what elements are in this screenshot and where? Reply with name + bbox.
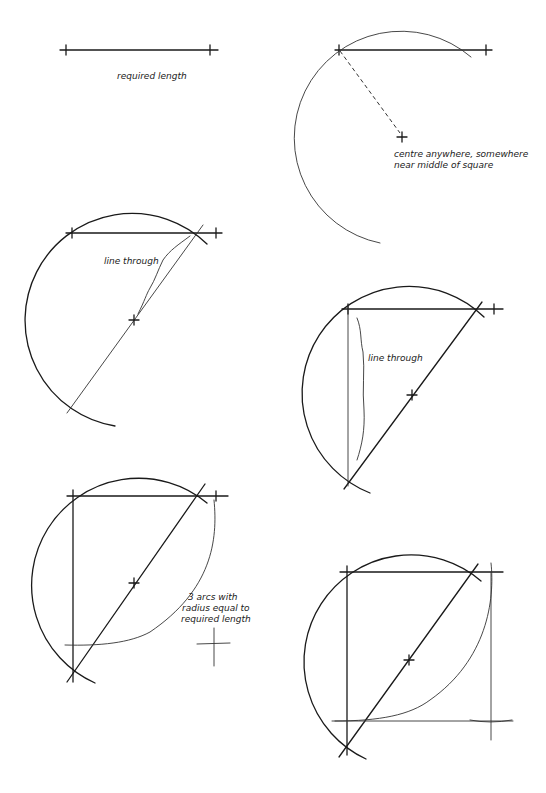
- circle-arc: [25, 213, 207, 426]
- label-arcs-line-1: 3 arcs with: [188, 592, 238, 602]
- step-3: line through: [25, 213, 222, 426]
- step-4: line through: [302, 286, 503, 493]
- step-6: [304, 555, 513, 759]
- step-2: centre anywhere, somewhere near middle o…: [294, 31, 528, 243]
- label-centre-line-2: near middle of square: [394, 160, 494, 170]
- pointer-squiggle: [138, 236, 190, 314]
- construction-diagram: required length centre anywhere, somewhe…: [0, 0, 546, 793]
- label-required-length: required length: [117, 71, 187, 81]
- label-centre-line-1: centre anywhere, somewhere: [394, 149, 529, 159]
- circle-arc: [304, 555, 481, 759]
- step-1: required length: [60, 45, 218, 81]
- circle-arc: [32, 478, 207, 683]
- label-line-through: line through: [368, 353, 423, 363]
- radius-dashed-line: [340, 51, 400, 133]
- circle-arc: [294, 31, 471, 243]
- pointer-squiggle: [357, 318, 364, 460]
- diagonal-line: [67, 225, 203, 413]
- label-arcs-line-3: required length: [181, 614, 251, 624]
- arc-required-length: [335, 563, 492, 721]
- step-5: 3 arcs with radius equal to required len…: [32, 478, 251, 683]
- label-arcs-line-2: radius equal to: [182, 603, 250, 613]
- label-line-through: line through: [104, 256, 159, 266]
- cross-mark: [197, 643, 230, 644]
- circle-arc: [302, 286, 484, 493]
